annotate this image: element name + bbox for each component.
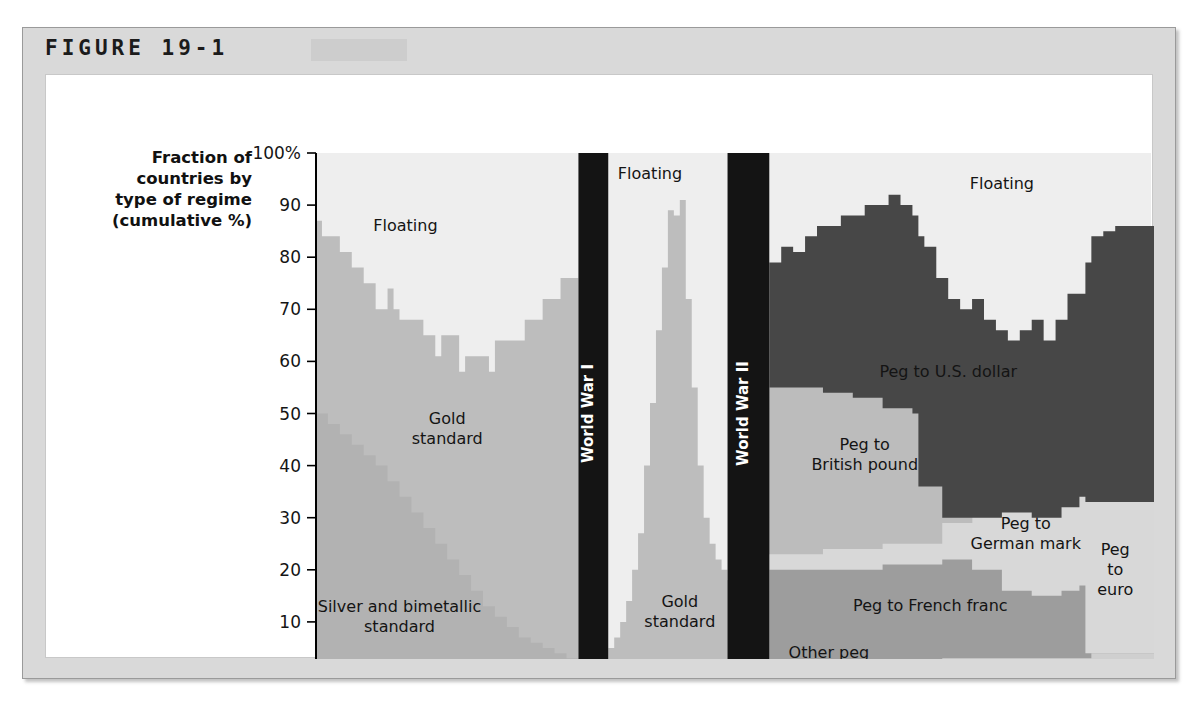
figure-header: FIGURE 19-1 — [23, 28, 1175, 68]
y-tick-label: 70 — [279, 299, 301, 319]
y-tick-label: 50 — [279, 404, 301, 424]
regime-label-peg-british-pound: Peg to — [840, 435, 890, 454]
regime-label-floating-interwar: Floating — [618, 164, 682, 183]
war-band-label: World War II — [734, 361, 752, 466]
regime-label-peg-euro: Peg — [1101, 540, 1130, 559]
regime-label-other-peg: Other peg — [789, 643, 870, 659]
exchange-rate-regime-area-chart: World War IWorld War II FloatingGoldstan… — [46, 75, 1154, 659]
regime-label-peg-euro: to — [1107, 560, 1123, 579]
regime-label-peg-french-franc: Peg to French franc — [853, 596, 1008, 615]
regime-label-peg-german-mark: Peg to — [1001, 514, 1051, 533]
figure-body: Fraction of countries by type of regime … — [45, 74, 1153, 658]
regime-label-floating-modern: Floating — [970, 174, 1034, 193]
y-tick-label: 90 — [279, 195, 301, 215]
regime-label-peg-british-pound: British pound — [811, 455, 918, 474]
y-tick-label: 60 — [279, 351, 301, 371]
y-tick-label: 20 — [279, 560, 301, 580]
regime-label-peg-german-mark: German mark — [971, 534, 1082, 553]
header-swatch — [311, 39, 407, 61]
regime-label-silver-bimetallic: standard — [364, 617, 435, 636]
regime-label-peg-euro: euro — [1097, 580, 1133, 599]
y-tick-label: 80 — [279, 247, 301, 267]
regime-label-floating-early: Floating — [373, 216, 437, 235]
regime-label-gold-standard-early: Gold — [429, 409, 466, 428]
regime-label-peg-us-dollar: Peg to U.S. dollar — [879, 362, 1017, 381]
regime-label-silver-bimetallic: Silver and bimetallic — [318, 597, 481, 616]
y-tick-label: 30 — [279, 508, 301, 528]
regime-label-gold-standard-interwar: Gold — [661, 592, 698, 611]
regime-label-gold-standard-early: standard — [412, 429, 483, 448]
figure-label: FIGURE 19-1 — [45, 36, 228, 60]
y-tick-label: 100% — [252, 143, 301, 163]
war-band-label: World War I — [579, 364, 597, 463]
regime-label-gold-standard-interwar: standard — [644, 612, 715, 631]
figure-panel: FIGURE 19-1 Fraction of countries by typ… — [22, 27, 1176, 679]
y-tick-label: 40 — [279, 456, 301, 476]
y-tick-label: 10 — [279, 612, 301, 632]
